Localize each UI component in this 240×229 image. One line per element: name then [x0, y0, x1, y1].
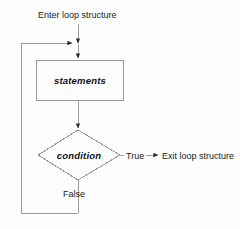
node-condition-label: condition: [48, 151, 110, 161]
flowchart-canvas: Enter loop structure statements conditio…: [0, 0, 240, 229]
entry-label: Enter loop structure: [38, 11, 117, 20]
false-branch-label: False: [63, 190, 85, 199]
node-statements-label: statements: [50, 76, 110, 86]
exit-label: Exit loop structure: [162, 152, 234, 161]
flowchart-graphic: [0, 0, 240, 229]
true-branch-label: True: [126, 152, 144, 161]
